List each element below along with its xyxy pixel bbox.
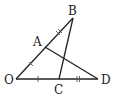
geometry-diagram: O A B C D — [0, 0, 118, 102]
label-D: D — [101, 73, 111, 87]
label-B: B — [68, 4, 77, 18]
segment-BC — [59, 18, 73, 79]
segment-OB — [16, 18, 73, 79]
label-A: A — [32, 35, 42, 49]
label-C: C — [54, 83, 63, 97]
label-O: O — [4, 73, 14, 87]
segment-AD — [45, 47, 98, 79]
